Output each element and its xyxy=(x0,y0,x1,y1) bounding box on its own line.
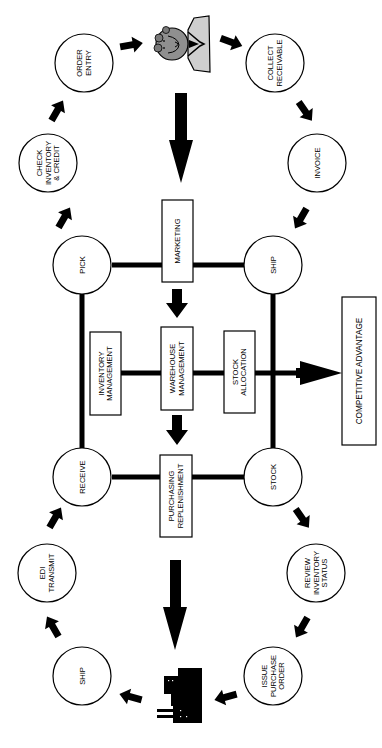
competitive-advantage-box: COMPETITIVE ADVANTAGE xyxy=(342,297,376,445)
review-inventory-status-node: REVIEWINVENTORYSTATUS xyxy=(287,544,345,602)
competitive-advantage-box-label: COMPETITIVE ADVANTAGE xyxy=(355,317,364,424)
issue-purchase-order-node-label-line: ORDER xyxy=(277,662,286,690)
warehouse-management-box-label: WAREHOUSEMANAGEMENT xyxy=(168,341,186,396)
ship-hub-node-label-line: SHIP xyxy=(269,256,278,274)
warehouse-management-box-label-line: MANAGEMENT xyxy=(177,341,186,396)
edi-transmit-node-label-line: TRANSMIT xyxy=(47,553,56,592)
arrow-check-to-order xyxy=(45,97,70,125)
pick-node: PICK xyxy=(53,236,111,294)
arrow-stock-to-review xyxy=(289,504,315,532)
arrow-marketing-to-warehouse xyxy=(166,289,188,318)
arrow-warehouse-to-purchasing xyxy=(166,415,188,445)
ship-outbound-node: SHIP xyxy=(53,647,111,705)
marketing-box-label: MARKETING xyxy=(173,218,182,263)
invoice-node-label: INVOICE xyxy=(313,147,322,178)
edi-transmit-node: EDITRANSMIT xyxy=(18,544,76,602)
marketing-box: MARKETING xyxy=(162,200,193,282)
order-entry-node-label-line: ENTRY xyxy=(84,50,93,76)
invoice-node: INVOICE xyxy=(288,134,346,192)
inventory-management-box-label: INVENTORYMANAGEMENT xyxy=(97,346,115,401)
customer-person-icon xyxy=(154,16,210,72)
review-inventory-status-node-label-line: STATUS xyxy=(320,559,329,588)
inventory-management-box-label-line: MANAGEMENT xyxy=(105,346,114,401)
receive-node: RECEIVE xyxy=(53,448,111,506)
purchasing-replenishment-box-label: PURCHASINGREPLENISHMENT xyxy=(167,463,185,528)
arrow-order-to-customer xyxy=(119,35,144,55)
order-entry-node: ORDERENTRY xyxy=(55,34,113,92)
purchasing-replenishment-box-label-line: REPLENISHMENT xyxy=(176,463,185,528)
big-arrow-customer-to-marketing xyxy=(169,93,193,183)
check-inventory-credit-node-label-line: & CREDIT xyxy=(52,145,61,181)
receive-node-label-line: RECEIVE xyxy=(78,460,87,493)
order-entry-node-label: ORDERENTRY xyxy=(75,49,93,77)
arrow-invoice-to-ship xyxy=(288,204,313,232)
stock-allocation-box: STOCKALLOCATION xyxy=(224,331,255,413)
ship-outbound-node-label-line: SHIP xyxy=(78,667,87,685)
function-boxes: MARKETINGINVENTORYMANAGEMENTWAREHOUSEMAN… xyxy=(90,200,376,537)
competitive-advantage-box-label-line: COMPETITIVE ADVANTAGE xyxy=(355,317,364,424)
issue-purchase-order-node: ISSUEPURCHASEORDER xyxy=(244,647,302,705)
ship-outbound-node-label: SHIP xyxy=(78,667,87,685)
purchasing-replenishment-box: PURCHASINGREPLENISHMENT xyxy=(160,455,192,537)
ship-hub-node: SHIP xyxy=(244,236,302,294)
stock-node-label-line: STOCK xyxy=(269,464,278,490)
inventory-management-box: INVENTORYMANAGEMENT xyxy=(90,332,121,415)
stock-node-label: STOCK xyxy=(269,464,278,490)
arrow-issue-to-supplier xyxy=(212,686,238,707)
supply-chain-diagram: CHECKINVENTORY& CREDITORDERENTRYCOLLECTR… xyxy=(0,0,382,748)
arrow-review-to-issue xyxy=(289,613,314,641)
arrow-collect-to-invoice xyxy=(292,97,318,125)
receive-node-label: RECEIVE xyxy=(78,460,87,493)
marketing-box-label-line: MARKETING xyxy=(173,218,182,263)
big-arrow-to-supplier xyxy=(163,560,187,650)
invoice-node-label-line: INVOICE xyxy=(313,147,322,178)
arrow-edi-to-receive xyxy=(43,504,68,532)
warehouse-management-box: WAREHOUSEMANAGEMENT xyxy=(161,327,193,410)
pick-node-label-line: PICK xyxy=(78,256,87,274)
ship-hub-node-label: SHIP xyxy=(269,256,278,274)
check-inventory-credit-node: CHECKINVENTORY& CREDIT xyxy=(19,134,77,192)
arrow-ship-to-edi xyxy=(40,613,65,641)
arrow-pick-to-check xyxy=(52,204,77,232)
big-arrow-to-competitive-advantage xyxy=(296,361,342,385)
stock-node: STOCK xyxy=(244,448,302,506)
collect-receivable-node-label: COLLECTRECEIVABLE xyxy=(266,39,284,86)
collect-receivable-node: COLLECTRECEIVABLE xyxy=(246,34,304,92)
collect-receivable-node-label-line: RECEIVABLE xyxy=(275,39,284,86)
factory-icon xyxy=(157,668,202,723)
arrow-customer-to-collect xyxy=(218,31,245,54)
pick-node-label: PICK xyxy=(78,256,87,274)
arrow-supplier-to-ship xyxy=(117,686,143,707)
stock-allocation-box-label-line: ALLOCATION xyxy=(239,348,248,396)
